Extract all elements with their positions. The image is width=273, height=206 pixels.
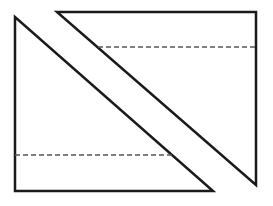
left-triangle	[15, 17, 213, 191]
right-triangle-group	[57, 12, 256, 185]
right-triangle	[57, 12, 256, 185]
left-triangle-group	[15, 17, 213, 191]
diagram-canvas	[0, 0, 273, 206]
